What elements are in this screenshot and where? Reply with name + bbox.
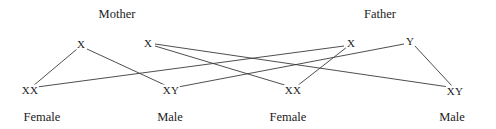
gamete-label: X xyxy=(144,37,152,49)
gamete-label: X xyxy=(77,38,85,50)
offspring-sex-label: Female xyxy=(24,110,61,124)
parent-title-father: Father xyxy=(364,8,396,21)
connection-lines-layer xyxy=(0,0,496,129)
gamete-label: Y xyxy=(406,35,414,47)
inheritance-line xyxy=(87,49,167,86)
offspring-genotype-1: XX xyxy=(21,85,39,96)
inheritance-line xyxy=(37,46,344,87)
parent-title-mother-label: Mother xyxy=(99,7,136,21)
offspring-genotype-4: XY xyxy=(446,86,464,97)
parent-title-mother: Mother xyxy=(99,8,136,21)
inheritance-line xyxy=(33,49,77,86)
parent-title-father-label: Father xyxy=(364,7,396,21)
offspring-genotype-label: XX xyxy=(22,84,38,96)
inheritance-line xyxy=(155,46,288,86)
inheritance-line xyxy=(414,45,452,86)
gamete-node-mother-x-right: X xyxy=(143,38,153,49)
offspring-sex-4: Male xyxy=(439,111,465,124)
offspring-genotype-label: XY xyxy=(163,84,179,96)
offspring-sex-2: Male xyxy=(157,111,183,124)
offspring-genotype-2: XY xyxy=(162,85,180,96)
offspring-genotype-3: XX xyxy=(284,85,302,96)
sex-inheritance-diagram: Mother Father X X X Y XX XY XX XY Female… xyxy=(0,0,496,129)
offspring-genotype-label: XY xyxy=(447,85,463,97)
gamete-label: X xyxy=(347,37,355,49)
gamete-node-mother-x-left: X xyxy=(76,39,86,50)
offspring-sex-1: Female xyxy=(24,111,61,124)
inheritance-line xyxy=(297,47,347,86)
gamete-node-father-x: X xyxy=(346,38,356,49)
offspring-sex-3: Female xyxy=(270,111,307,124)
inheritance-line xyxy=(178,44,404,87)
offspring-sex-label: Male xyxy=(157,110,183,124)
offspring-sex-label: Male xyxy=(439,110,465,124)
gamete-node-father-y: Y xyxy=(405,36,415,47)
offspring-genotype-label: XX xyxy=(285,84,301,96)
offspring-sex-label: Female xyxy=(270,110,307,124)
